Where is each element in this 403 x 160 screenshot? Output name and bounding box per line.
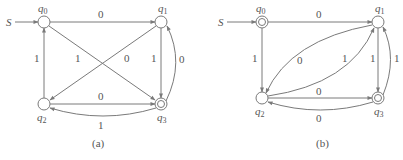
state-a-q2: [38, 98, 50, 110]
edge-label-a-q0-q3: 1: [75, 52, 81, 64]
edge-a-q3-q1: [166, 26, 176, 101]
state-label-b-q3: q3: [374, 105, 384, 119]
state-label-a-q1: q1: [158, 2, 168, 16]
edge-label-a-q1-q3: 1: [151, 52, 157, 64]
edge-label-b-q2-q1: 1: [342, 52, 348, 64]
edge-label-b-q0-q2: 1: [252, 52, 258, 64]
accepting-ring-b-q3: [375, 95, 382, 102]
accepting-ring-b-q0: [259, 19, 266, 26]
edge-label-a-q3-q2: 1: [98, 119, 104, 131]
state-b-q1: [372, 16, 384, 28]
start-label-b: S: [218, 16, 224, 28]
edge-b-q3-q1: [383, 27, 391, 95]
accepting-ring-a-q3: [158, 101, 165, 108]
edge-label-b-q3-q2: 0: [316, 112, 322, 124]
caption-a: (a): [92, 137, 105, 150]
state-label-b-q0: q0: [256, 2, 266, 16]
edge-a-q3-q2: [50, 108, 156, 116]
state-label-a-q0: q0: [38, 2, 48, 16]
state-label-b-q1: q1: [375, 2, 385, 16]
edge-a-q0-q3: [49, 26, 155, 100]
edge-label-b-q2-q3: 0: [316, 85, 322, 97]
caption-b: (b): [316, 137, 329, 150]
edge-label-b-q1-q2: 0: [297, 54, 303, 66]
state-label-a-q3: q3: [157, 111, 167, 125]
state-a-q0: [38, 16, 50, 28]
start-label-a: S: [6, 16, 12, 28]
edge-b-q1-q2: [266, 25, 372, 93]
state-b-q2: [256, 92, 268, 104]
edge-label-a-q1-q2: 0: [124, 52, 130, 64]
edge-label-b-q1-q3: 1: [370, 52, 376, 64]
edge-a-q1-q2: [50, 26, 156, 100]
state-a-q1: [155, 16, 167, 28]
edge-b-q3-q2: [268, 102, 373, 110]
edge-label-a-q3-q1: 0: [179, 53, 185, 65]
diagram-b: S 0 1 0 1 1 1 0 0 q0 q1: [218, 2, 400, 150]
state-label-b-q2: q2: [255, 105, 265, 119]
automata-figure: S 0 1 1 0 1 0 0 1 q0 q1 q2: [0, 0, 403, 160]
edge-label-a-q2-q0: 1: [34, 52, 40, 64]
diagram-a: S 0 1 1 0 1 0 0 1 q0 q1 q2: [6, 2, 185, 150]
state-label-a-q2: q2: [37, 111, 47, 125]
edge-label-a-q2-q3: 0: [98, 90, 104, 102]
edge-label-b-q0-q1: 0: [316, 8, 322, 20]
edge-label-a-q0-q1: 0: [98, 8, 104, 20]
edge-label-b-q3-q1: 1: [394, 52, 400, 64]
